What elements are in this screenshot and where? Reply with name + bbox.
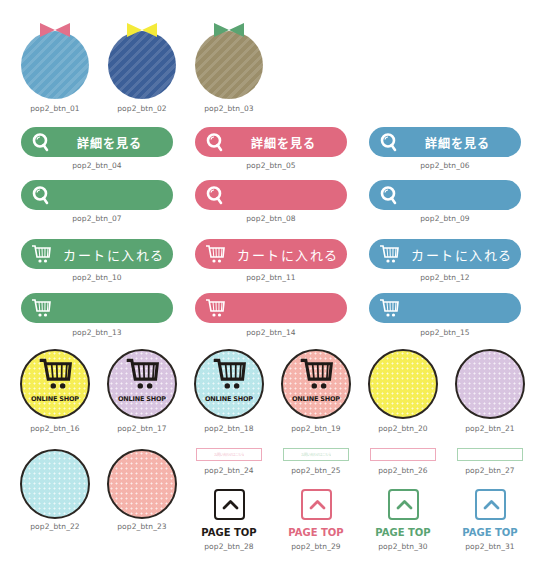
cart-icon <box>205 244 225 264</box>
button-caption: pop2_btn_21 <box>440 424 539 433</box>
cart-icon-wrap <box>205 298 225 318</box>
cart-icon <box>205 298 225 318</box>
button-caption: pop2_btn_30 <box>353 542 453 551</box>
dotted-circle-button[interactable] <box>20 449 90 519</box>
cart-icon <box>379 298 399 318</box>
online-shop-button[interactable]: ONLINE SHOP <box>107 349 177 419</box>
button-caption: pop2_btn_23 <box>92 522 192 531</box>
cart-icon-wrap <box>205 244 225 264</box>
bow-ball-button[interactable] <box>21 31 89 99</box>
detail-button[interactable]: 詳細を見る <box>369 127 521 157</box>
button-label: カートに入れる <box>237 245 339 264</box>
page-top-label: PAGE TOP <box>189 527 269 538</box>
cart-icon-wrap <box>379 244 399 264</box>
button-label: カートに入れる <box>63 245 165 264</box>
page-top-label: PAGE TOP <box>450 527 530 538</box>
cart-icon-wrap <box>31 244 51 264</box>
online-shop-button[interactable]: ONLINE SHOP <box>20 349 90 419</box>
search-icon <box>205 132 225 152</box>
page-top-button[interactable] <box>301 489 332 520</box>
dotted-circle-button[interactable] <box>107 449 177 519</box>
online-shop-button[interactable]: ONLINE SHOP <box>281 349 351 419</box>
chevron-up-icon <box>482 497 501 511</box>
cart-icon <box>299 357 333 391</box>
bow-ball-button[interactable] <box>108 31 176 99</box>
dotted-circle-button[interactable] <box>455 349 525 419</box>
button-caption: pop2_btn_26 <box>353 466 453 475</box>
button-caption: pop2_btn_10 <box>47 273 147 282</box>
button-caption: pop2_btn_11 <box>221 273 321 282</box>
button-caption: pop2_btn_05 <box>221 161 321 170</box>
cart-icon-button[interactable] <box>21 293 173 323</box>
outline-button-text: お問い合わせはこちら <box>214 452 244 457</box>
page-top-button[interactable] <box>388 489 419 520</box>
button-label: 詳細を見る <box>77 134 142 151</box>
search-icon <box>31 132 51 152</box>
search-button[interactable] <box>21 180 173 210</box>
search-button[interactable] <box>195 180 347 210</box>
page-top-label: PAGE TOP <box>363 527 443 538</box>
cart-icon-wrap <box>379 298 399 318</box>
outline-button-text: お問い合わせはこちら <box>301 452 331 457</box>
button-caption: pop2_btn_18 <box>179 424 279 433</box>
button-label: 詳細を見る <box>425 134 490 151</box>
outline-button[interactable]: お問い合わせはこちら <box>196 448 262 461</box>
cart-icon <box>212 357 246 391</box>
search-icon <box>31 185 51 205</box>
search-icon-wrap <box>31 132 51 152</box>
button-caption: pop2_btn_25 <box>266 466 366 475</box>
outline-button[interactable] <box>370 448 436 461</box>
online-shop-label: ONLINE SHOP <box>283 395 349 403</box>
chevron-up-icon <box>308 497 327 511</box>
button-caption: pop2_btn_28 <box>179 542 279 551</box>
cart-icon-button[interactable] <box>195 293 347 323</box>
outline-button[interactable] <box>457 448 523 461</box>
button-caption: pop2_btn_20 <box>353 424 453 433</box>
search-icon <box>379 132 399 152</box>
button-caption: pop2_btn_03 <box>179 104 279 113</box>
search-button[interactable] <box>369 180 521 210</box>
search-icon <box>205 185 225 205</box>
detail-button[interactable]: 詳細を見る <box>21 127 173 157</box>
bow-icon <box>214 23 244 37</box>
chevron-up-icon <box>395 497 414 511</box>
dotted-circle-button[interactable] <box>368 349 438 419</box>
search-icon-wrap <box>205 132 225 152</box>
button-caption: pop2_btn_17 <box>92 424 192 433</box>
button-caption: pop2_btn_29 <box>266 542 366 551</box>
online-shop-label: ONLINE SHOP <box>109 395 175 403</box>
search-icon-wrap <box>379 132 399 152</box>
page-top-label: PAGE TOP <box>276 527 356 538</box>
bow-icon <box>40 23 70 37</box>
button-caption: pop2_btn_27 <box>440 466 539 475</box>
chevron-up-icon <box>221 497 240 511</box>
detail-button[interactable]: 詳細を見る <box>195 127 347 157</box>
online-shop-label: ONLINE SHOP <box>22 395 88 403</box>
button-caption: pop2_btn_15 <box>395 328 495 337</box>
cart-icon-button[interactable] <box>369 293 521 323</box>
online-shop-button[interactable]: ONLINE SHOP <box>194 349 264 419</box>
button-caption: pop2_btn_04 <box>47 161 147 170</box>
button-label: カートに入れる <box>411 245 513 264</box>
search-icon-wrap <box>205 185 225 205</box>
cart-add-button[interactable]: カートに入れる <box>195 239 347 269</box>
bow-ball-button[interactable] <box>195 31 263 99</box>
page-top-button[interactable] <box>475 489 506 520</box>
button-caption: pop2_btn_07 <box>47 214 147 223</box>
cart-add-button[interactable]: カートに入れる <box>21 239 173 269</box>
search-icon-wrap <box>31 185 51 205</box>
cart-add-button[interactable]: カートに入れる <box>369 239 521 269</box>
button-caption: pop2_btn_01 <box>5 104 105 113</box>
page-top-button[interactable] <box>214 489 245 520</box>
search-icon-wrap <box>379 185 399 205</box>
button-caption: pop2_btn_22 <box>5 522 105 531</box>
button-caption: pop2_btn_24 <box>179 466 279 475</box>
button-caption: pop2_btn_09 <box>395 214 495 223</box>
bow-icon <box>127 23 157 37</box>
cart-icon <box>31 244 51 264</box>
button-caption: pop2_btn_16 <box>5 424 105 433</box>
cart-icon <box>125 357 159 391</box>
outline-button[interactable]: お問い合わせはこちら <box>283 448 349 461</box>
cart-icon <box>379 244 399 264</box>
button-caption: pop2_btn_02 <box>92 104 192 113</box>
